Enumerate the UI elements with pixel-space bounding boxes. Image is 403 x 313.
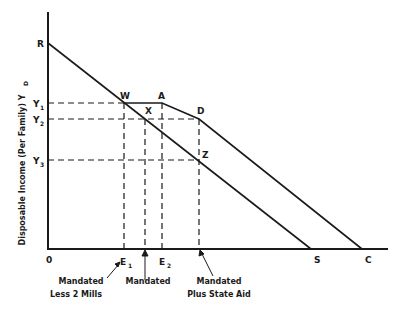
svg-text:Mandated: Mandated [125, 277, 170, 286]
label-D: D [197, 106, 204, 116]
svg-text:Y: Y [32, 115, 40, 125]
svg-text:1: 1 [128, 262, 132, 269]
label-R: R [37, 39, 44, 49]
origin-label: 0 [46, 255, 52, 265]
label-C: C [365, 255, 372, 265]
y-tick-Y1: Y 1 [32, 99, 44, 111]
annotation-mandated-less-2-mills: Mandated Less 2 Mills [50, 277, 104, 299]
svg-text:1: 1 [40, 104, 44, 111]
x-tick-E1: E 1 [120, 257, 132, 269]
label-W: W [120, 91, 130, 101]
svg-text:E: E [159, 257, 165, 267]
svg-text:D: D [22, 81, 29, 86]
annotation-mandated: Mandated [125, 277, 170, 286]
x-tick-E2: E 2 [159, 257, 171, 269]
line-WADC [124, 103, 362, 249]
svg-text:Mandated: Mandated [196, 277, 241, 286]
svg-text:Disposable Income (Per Family): Disposable Income (Per Family) Y [18, 94, 27, 245]
svg-text:Mandated: Mandated [58, 277, 103, 286]
label-A: A [158, 91, 165, 101]
svg-text:2: 2 [40, 120, 44, 127]
budget-constraint-diagram: R W A X D Z S C 0 Y 1 Y 2 Y 3 E 1 E 2 Ma… [0, 0, 403, 313]
line-RS [48, 43, 311, 249]
dashed-guides [48, 103, 199, 249]
svg-text:Less 2 Mills: Less 2 Mills [50, 290, 102, 299]
y-tick-Y2: Y 2 [32, 115, 44, 127]
label-S: S [314, 255, 320, 265]
y-axis-label: Disposable Income (Per Family) Y D [18, 81, 29, 246]
y-tick-Y3: Y 3 [32, 156, 44, 168]
svg-text:Y: Y [32, 99, 40, 109]
svg-text:3: 3 [40, 161, 44, 168]
svg-text:2: 2 [167, 262, 171, 269]
svg-text:Y: Y [32, 156, 40, 166]
svg-text:E: E [120, 257, 126, 267]
label-X: X [145, 106, 152, 116]
svg-text:Plus State Aid: Plus State Aid [187, 290, 251, 299]
annotation-mandated-plus-state-aid: Mandated Plus State Aid [187, 277, 251, 299]
label-Z: Z [202, 150, 209, 160]
